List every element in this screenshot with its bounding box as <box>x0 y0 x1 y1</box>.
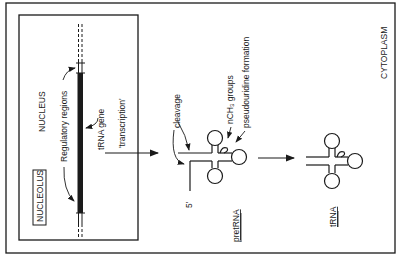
regulatory-arrow-top <box>63 68 75 80</box>
methyl-arrow <box>228 127 231 138</box>
regulatory-region-bottom <box>79 213 83 227</box>
regulatory-arrow-bottom <box>64 167 74 201</box>
five-prime-label: 5' <box>184 201 194 208</box>
pseudouridine-arrow <box>236 131 245 142</box>
nucleolus-label: NUCLEOLUS <box>35 170 45 222</box>
diagram-canvas: NUCLEOLUS NUCLEUS Regulatory regions tRN… <box>0 0 403 259</box>
nucleus-label: NUCLEUS <box>37 91 47 132</box>
methyl-groups-label: nCH₃ groups <box>225 75 235 124</box>
trna-gene-label: tRNA gene <box>96 109 106 150</box>
transcription-label: 'transcription' <box>117 98 127 148</box>
cleavage-label: cleavage <box>172 94 182 128</box>
cytoplasm-label: CYTOPLASM <box>379 27 389 79</box>
gene-dashed-top <box>79 24 83 62</box>
regulatory-region-top <box>76 62 85 74</box>
regulatory-regions-label: Regulatory regions <box>59 91 69 162</box>
trna-gene-bar <box>78 73 84 213</box>
trna-structure <box>306 134 363 189</box>
pretrna-label: pretRNA <box>231 209 241 242</box>
trna-label: tRNA <box>328 206 338 227</box>
gene-dashed-bottom <box>79 229 83 239</box>
pseudouridine-label: pseudouridine formation <box>241 37 251 128</box>
cleavage-arrow-bottom <box>173 130 184 164</box>
pretrna-structure <box>178 131 247 192</box>
